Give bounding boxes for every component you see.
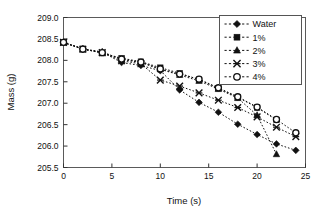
- data-point-marker: [138, 59, 144, 65]
- x-axis-tick-label: 5: [110, 171, 115, 181]
- y-axis-tick-label: 206.0: [37, 141, 59, 151]
- data-point-marker: [254, 104, 260, 110]
- legend-item-label: 3%: [253, 59, 266, 69]
- data-point-marker: [234, 34, 240, 40]
- data-point-marker: [293, 130, 299, 136]
- data-point-marker: [235, 94, 241, 100]
- y-axis-tick-label: 206.5: [37, 120, 59, 130]
- data-point-marker: [196, 76, 202, 82]
- data-point-marker: [177, 71, 183, 77]
- x-axis-tick-label: 15: [204, 171, 214, 181]
- data-point-marker: [60, 39, 66, 45]
- x-axis-title: Time (s): [167, 195, 201, 206]
- y-axis-tick-label: 207.5: [37, 77, 59, 87]
- legend-item-label: 2%: [253, 46, 266, 56]
- y-axis-tick-label: 205.5: [37, 163, 59, 173]
- data-point-marker: [157, 66, 163, 72]
- data-point-marker: [80, 46, 86, 52]
- data-point-marker: [119, 56, 125, 62]
- data-point-marker: [215, 85, 221, 91]
- mass-vs-time-scatter-chart: 205.5206.0206.5207.0207.5208.0208.5209.0…: [0, 0, 324, 209]
- y-axis-tick-label: 209.0: [37, 13, 59, 23]
- data-point-marker: [234, 74, 241, 81]
- legend-item-label: 4%: [253, 72, 266, 82]
- x-axis-tick-label: 25: [301, 171, 311, 181]
- x-axis-tick-label: 0: [61, 171, 66, 181]
- data-point-marker: [273, 116, 279, 122]
- y-axis-title: Mass (g): [5, 74, 16, 111]
- y-axis-tick-label: 207.0: [37, 98, 59, 108]
- chart-container: 205.5206.0206.5207.0207.5208.0208.5209.0…: [0, 0, 324, 209]
- y-axis-tick-label: 208.5: [37, 34, 59, 44]
- x-axis-tick-label: 20: [252, 171, 262, 181]
- x-axis-tick-label: 10: [156, 171, 166, 181]
- legend-item-label: Water: [253, 19, 277, 29]
- legend-box: Water1%2%3%4%: [220, 16, 302, 85]
- legend-item-label: 1%: [253, 33, 266, 43]
- y-axis-tick-label: 208.0: [37, 55, 59, 65]
- data-point-marker: [99, 50, 105, 56]
